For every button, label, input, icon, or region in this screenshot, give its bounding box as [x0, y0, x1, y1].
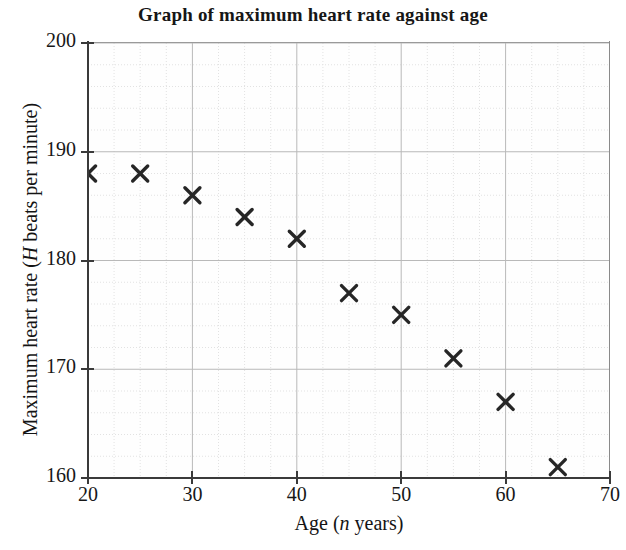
y-axis-tick	[81, 260, 94, 262]
data-point	[237, 210, 252, 225]
data-point	[88, 166, 96, 181]
y-axis-tick	[81, 151, 94, 153]
x-axis-tick-label: 20	[58, 483, 118, 506]
chart-container: Graph of maximum heart rate against age …	[0, 0, 626, 550]
data-point	[133, 166, 148, 181]
data-point	[185, 188, 200, 203]
data-point	[342, 286, 357, 301]
y-axis-title: Maximum heart rate (H beats per minute)	[19, 35, 42, 505]
chart-title: Graph of maximum heart rate against age	[0, 4, 626, 26]
x-axis-tick-label: 60	[476, 483, 536, 506]
data-point	[550, 460, 565, 475]
x-axis-tick-label: 70	[580, 483, 626, 506]
x-axis-tick-label: 30	[162, 483, 222, 506]
data-point	[446, 351, 461, 366]
plot-area	[88, 43, 610, 478]
axis-variable-symbol: n	[340, 512, 350, 534]
y-axis-tick	[81, 42, 94, 44]
plot-border-top	[88, 42, 610, 43]
axis-variable-symbol: H	[19, 247, 41, 261]
plot-border-right	[609, 41, 610, 478]
data-points-layer	[88, 43, 610, 478]
data-point	[289, 231, 304, 246]
x-axis-tick-label: 40	[267, 483, 327, 506]
x-axis-line	[87, 477, 611, 479]
x-axis-title: Age (n years)	[88, 512, 610, 535]
data-point	[498, 394, 513, 409]
data-point	[394, 307, 409, 322]
x-axis-tick-label: 50	[371, 483, 431, 506]
y-axis-tick	[81, 368, 94, 370]
